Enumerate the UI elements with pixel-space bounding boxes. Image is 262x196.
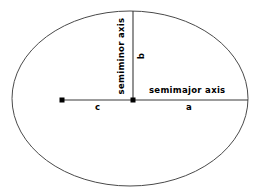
semimajor-length-label: a	[186, 103, 192, 112]
ellipse-outline	[12, 11, 248, 186]
semiminor-axis-label: semiminor axis	[117, 18, 126, 95]
focus-point	[60, 98, 65, 103]
semiminor-length-label: b	[137, 53, 146, 59]
focal-distance-label: c	[95, 103, 100, 112]
semimajor-axis-label: semimajor axis	[149, 86, 225, 95]
ellipse-diagram-canvas	[0, 0, 262, 196]
ellipse-diagram: semimajor axis a c semiminor axis b	[0, 0, 262, 196]
center-point	[131, 98, 136, 103]
